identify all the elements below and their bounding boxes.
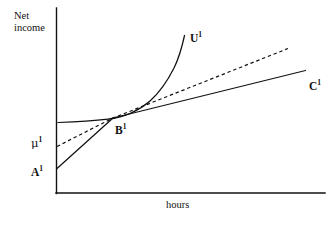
intercept-label-a-superscript: 1 [39, 164, 43, 173]
net-income-hours-figure: Netincome hours U1 C1 B1 μ1 A1 [0, 0, 335, 225]
curve-label-utility-superscript: 1 [198, 30, 202, 39]
intercept-label-mu-superscript: 1 [38, 135, 42, 144]
x-axis-label: hours [166, 199, 189, 211]
y-axis-label-line1: Net [14, 10, 29, 21]
point-label-intersection: B1 [115, 124, 126, 137]
intercept-label-mu: μ1 [31, 137, 42, 150]
y-axis-label: Netincome [14, 10, 45, 34]
utility-curve-U1 [58, 36, 185, 123]
cost-line-C1 [57, 71, 306, 169]
curve-label-cost: C1 [309, 80, 321, 93]
y-axis-label-line2: income [14, 22, 45, 33]
point-label-intersection-superscript: 1 [123, 122, 127, 131]
point-label-intersection-text: B [115, 124, 123, 136]
curve-label-cost-superscript: 1 [317, 78, 321, 87]
dashed-reference-line [57, 49, 288, 147]
plot-canvas [0, 0, 335, 225]
curve-label-utility: U1 [190, 32, 202, 45]
intercept-label-a: A1 [31, 166, 43, 179]
